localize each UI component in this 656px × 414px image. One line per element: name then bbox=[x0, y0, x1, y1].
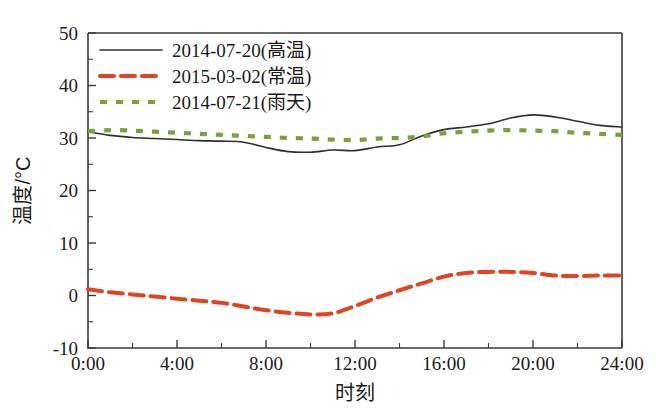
y-tick-label: 40 bbox=[59, 75, 78, 96]
y-axis-title: 温度/°C bbox=[12, 157, 34, 225]
legend-label-1: 2015-03-02(常温) bbox=[172, 66, 311, 88]
x-tick-label: 12:00 bbox=[333, 353, 376, 374]
y-tick-label: 20 bbox=[59, 180, 78, 201]
x-tick-label: 16:00 bbox=[422, 353, 465, 374]
x-tick-label: 8:00 bbox=[249, 353, 283, 374]
y-tick-label: 30 bbox=[59, 128, 78, 149]
temperature-line-chart: -10010203040500:004:008:0012:0016:0020:0… bbox=[0, 0, 656, 414]
series-line-1 bbox=[88, 272, 622, 315]
chart-canvas: -10010203040500:004:008:0012:0016:0020:0… bbox=[0, 0, 656, 414]
y-tick-label: 10 bbox=[59, 233, 78, 254]
legend-label-0: 2014-07-20(高温) bbox=[172, 40, 311, 62]
x-tick-label: 0:00 bbox=[71, 353, 105, 374]
x-tick-label: 20:00 bbox=[511, 353, 554, 374]
y-tick-label: 50 bbox=[59, 23, 78, 44]
y-tick-label: 0 bbox=[69, 285, 79, 306]
plot-frame bbox=[88, 33, 622, 348]
x-tick-label: 24:00 bbox=[600, 353, 643, 374]
x-axis-title: 时刻 bbox=[335, 382, 375, 404]
x-tick-label: 4:00 bbox=[160, 353, 194, 374]
legend-label-2: 2014-07-21(雨天) bbox=[172, 92, 311, 114]
